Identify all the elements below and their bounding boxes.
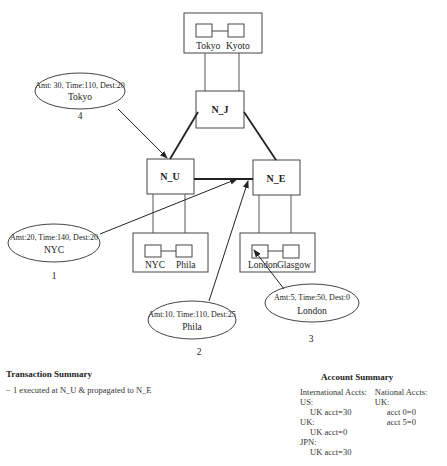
node-label-n-u: N_U	[160, 171, 179, 182]
region-n-j: Tokyo Kyoto	[184, 13, 262, 53]
national-accounts-header: National Accts:	[375, 387, 428, 397]
transaction-2: Amt:10, Time:110, Dest:25 Phila 2	[148, 301, 236, 357]
international-accounts: International Accts: US: UK acct=30 UK: …	[300, 387, 367, 457]
transaction-summary-title: Transaction Summary	[6, 369, 151, 379]
link-n-j-n-e	[244, 112, 276, 160]
account-entry: acct 0=0	[375, 407, 428, 417]
transaction-details: Amt:20, Time:140, Dest:20	[10, 233, 98, 242]
group-label-us: US:	[300, 397, 367, 407]
international-accounts-header: International Accts:	[300, 387, 367, 397]
transaction-4: Amt: 30, Time:110, Dest:20 Tokyo 4	[35, 73, 125, 121]
transaction-number: 4	[78, 111, 83, 121]
city-label-tokyo: Tokyo	[196, 41, 220, 51]
account-entry: UK acct=30	[300, 447, 367, 457]
node-n-j: N_J	[196, 91, 244, 128]
group-label-jpn: JPN:	[300, 437, 367, 447]
group-label-uk: UK:	[300, 417, 367, 427]
transaction-number: 2	[197, 347, 202, 357]
link-n-j-n-u	[170, 112, 198, 159]
city-label-kyoto: Kyoto	[226, 41, 250, 51]
national-accounts: National Accts: UK: acct 0=0 acct 5=0	[375, 387, 428, 457]
transaction-origin: NYC	[44, 245, 64, 255]
city-box-london	[252, 245, 268, 258]
city-box-tokyo	[196, 24, 212, 37]
region-n-e: London Glasgow	[240, 233, 315, 272]
city-box-glasgow	[283, 245, 299, 258]
node-label-n-j: N_J	[211, 104, 228, 115]
transaction-details: Amt:10, Time:110, Dest:25	[148, 310, 236, 319]
transaction-number: 3	[309, 334, 314, 344]
city-box-phila	[176, 245, 192, 257]
group-label-uk: UK:	[375, 397, 428, 407]
account-entry: UK acct=30	[300, 407, 367, 417]
transaction-details: Amt:5, Time:50, Dest:0	[274, 293, 350, 302]
transaction-3: Amt:5, Time:50, Dest:0 London 3	[265, 284, 359, 344]
transaction-summary-item: − 1 executed at N_U & propagated to N_E	[6, 385, 151, 395]
transaction-origin: Tokyo	[68, 92, 92, 102]
city-label-glasgow: Glasgow	[277, 260, 311, 270]
transaction-1: Amt:20, Time:140, Dest:20 NYC 1	[8, 224, 100, 281]
transaction-summary: Transaction Summary − 1 executed at N_U …	[6, 369, 151, 395]
transaction-number: 1	[52, 271, 57, 281]
node-n-u: N_U	[147, 159, 194, 194]
node-n-e: N_E	[253, 160, 300, 195]
transaction-origin: London	[297, 306, 327, 316]
account-summary-title: Account Summary	[321, 372, 393, 382]
city-label-nyc: NYC	[145, 260, 165, 270]
account-entry: acct 5=0	[375, 417, 428, 427]
city-box-nyc	[145, 245, 161, 257]
region-n-u: NYC Phila	[133, 233, 208, 272]
account-summary: International Accts: US: UK acct=30 UK: …	[300, 387, 427, 457]
account-entry: UK acct=0	[300, 427, 367, 437]
transaction-details: Amt: 30, Time:110, Dest:20	[35, 81, 125, 90]
city-box-kyoto	[228, 24, 244, 37]
node-label-n-e: N_E	[267, 173, 286, 184]
city-label-phila: Phila	[176, 260, 196, 270]
transaction-origin: Phila	[182, 322, 202, 332]
